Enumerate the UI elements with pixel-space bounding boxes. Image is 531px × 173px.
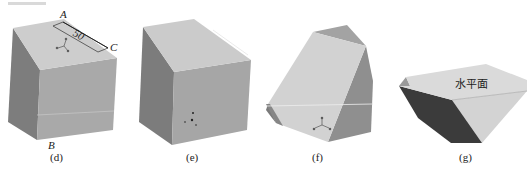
caption-e: (e) (186, 151, 199, 164)
panel-f: (f) (266, 25, 373, 164)
caption-g: (g) (459, 151, 472, 164)
horizontal-plane-label: 水平面 (455, 78, 488, 91)
caption-d: (d) (50, 151, 63, 164)
panel-g: 水平面 (g) (399, 64, 527, 164)
point-label-A: A (59, 8, 67, 20)
panel-e: (e) (139, 19, 251, 164)
point-label-B: B (48, 139, 55, 151)
cropped-header-text (8, 2, 46, 5)
panel-d: 50 A C B (d) (8, 8, 118, 164)
caption-f: (f) (312, 151, 323, 164)
figure-canvas: 50 A C B (d) (e) (0, 0, 531, 173)
point-label-C: C (110, 41, 118, 53)
cube-d-front-face (37, 58, 117, 140)
cube-e-front-face (172, 60, 251, 145)
